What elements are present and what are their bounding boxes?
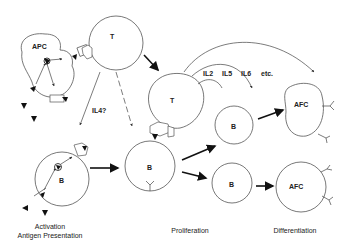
stage-proliferation: Proliferation — [171, 227, 208, 234]
stage-activation-line1: Activation — [35, 223, 65, 230]
b-lower-right-label: B — [229, 181, 234, 188]
antibody-icon — [146, 181, 154, 191]
tcr-icon — [82, 45, 92, 59]
il4-label: IL4? — [92, 107, 106, 114]
il6-label: IL6 — [241, 70, 251, 77]
b-left-label: B — [59, 177, 64, 184]
antigen-icon — [21, 103, 27, 109]
antigen-icon — [22, 205, 28, 211]
b-upper-right-label: B — [231, 123, 236, 130]
afc-cell-upper — [285, 83, 334, 143]
afc-upper-label: AFC — [294, 101, 308, 108]
apc-label: APC — [32, 43, 47, 50]
antigen-icon — [42, 210, 48, 216]
stage-activation-line2: Antigen Presentation — [18, 232, 83, 240]
antibody-icon — [321, 165, 332, 172]
antibody-icon — [318, 134, 330, 143]
t-mid-label: T — [170, 97, 175, 104]
stage-differentiation: Differentiation — [273, 227, 316, 234]
antigen-icon — [31, 116, 37, 122]
t-cell-middle — [148, 73, 203, 140]
afc-lower-label: AFC — [289, 183, 303, 190]
receptor-icon — [50, 95, 64, 102]
t-cell-top — [82, 16, 143, 70]
b-center-label: B — [147, 164, 152, 171]
afc-cell-lower — [276, 162, 333, 212]
t-top-label: T — [110, 33, 115, 40]
etc-label: etc. — [261, 70, 273, 77]
tcr-complex-icon — [150, 122, 170, 136]
il5-label: IL5 — [222, 70, 232, 77]
immune-response-diagram: APC T IL4? T IL2 IL5 IL6 etc. B — [0, 0, 350, 250]
b-cell-left — [34, 143, 89, 206]
il2-label: IL2 — [203, 70, 213, 77]
receptor-icon — [74, 143, 88, 156]
